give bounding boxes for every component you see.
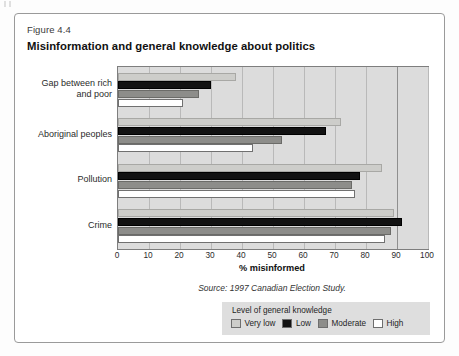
category-label-line: and poor [20, 89, 112, 100]
legend-item: Very low [231, 319, 275, 328]
legend-title: Level of general knowledge [232, 306, 332, 315]
bar-chart-plot-area [117, 66, 429, 250]
x-axis-label: % misinformed [117, 263, 427, 273]
x-tick-80: 80 [360, 250, 369, 260]
figure-page: Figure 4.4 Misinformation and general kn… [0, 0, 459, 356]
source-note: Source: 1997 Canadian Election Study. [117, 283, 427, 293]
category-label: Pollution [20, 174, 112, 185]
category-label-line: Gap between rich [20, 78, 112, 89]
x-tick-20: 20 [174, 250, 183, 260]
x-tick-50: 50 [267, 250, 276, 260]
bar [118, 164, 382, 172]
legend-label: High [387, 319, 404, 328]
bar [118, 90, 199, 98]
bar-groups [118, 67, 428, 249]
legend-items: Very lowLowModerateHigh [231, 319, 426, 328]
bar [118, 209, 394, 217]
bar-group [118, 158, 428, 204]
bar [118, 127, 326, 135]
bar-group [118, 113, 428, 159]
bar [118, 81, 211, 89]
legend-label: Moderate [331, 319, 366, 328]
bar-group [118, 204, 428, 250]
bar-group [118, 67, 428, 113]
bar [118, 73, 236, 81]
legend-swatch-icon [282, 319, 292, 328]
bar [118, 181, 352, 189]
bar [118, 227, 391, 235]
bar [118, 118, 341, 126]
category-label-line: Crime [20, 220, 112, 231]
bar [118, 190, 355, 198]
category-label-line: Aboriginal peoples [20, 129, 112, 140]
scan-artifact [4, 1, 14, 7]
gridline-100 [428, 67, 429, 249]
x-tick-100: 100 [420, 250, 434, 260]
legend-item: Low [282, 319, 311, 328]
category-label: Aboriginal peoples [20, 129, 112, 140]
legend-label: Low [296, 319, 311, 328]
bar [118, 144, 253, 152]
category-axis-labels: Gap between richand poorAboriginal peopl… [20, 66, 112, 248]
legend-label: Very low [245, 319, 276, 328]
x-tick-40: 40 [236, 250, 245, 260]
x-tick-60: 60 [298, 250, 307, 260]
legend-item: High [373, 319, 403, 328]
bar [118, 235, 385, 243]
bar [118, 218, 402, 226]
category-label-line: Pollution [20, 174, 112, 185]
bar [118, 172, 360, 180]
x-axis-ticks: 0102030405060708090100 [117, 250, 429, 264]
x-tick-10: 10 [143, 250, 152, 260]
legend-swatch-icon [373, 319, 383, 328]
x-tick-70: 70 [329, 250, 338, 260]
legend-item: Moderate [318, 319, 366, 328]
x-tick-30: 30 [205, 250, 214, 260]
category-label: Crime [20, 220, 112, 231]
legend: Level of general knowledge Very lowLowMo… [222, 302, 430, 335]
figure-title: Misinformation and general knowledge abo… [27, 40, 315, 52]
figure-number: Figure 4.4 [27, 24, 71, 35]
category-label: Gap between richand poor [20, 78, 112, 100]
bar [118, 99, 183, 107]
legend-swatch-icon [231, 319, 241, 328]
bar [118, 136, 282, 144]
x-tick-90: 90 [391, 250, 400, 260]
x-tick-0: 0 [115, 250, 120, 260]
legend-swatch-icon [318, 319, 328, 328]
